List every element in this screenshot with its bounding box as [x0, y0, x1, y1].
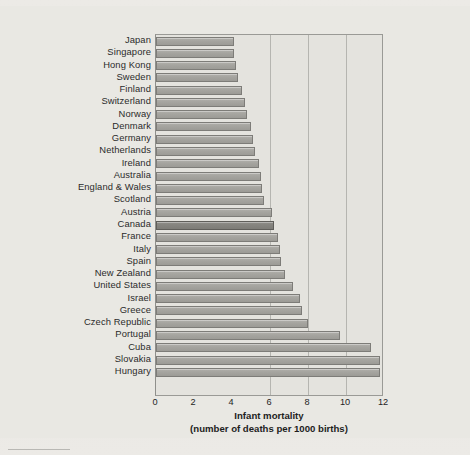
bar-rows: JapanSingaporeHong KongSwedenFinlandSwit…: [156, 35, 382, 395]
x-axis-title: Infant mortality (number of deaths per 1…: [155, 410, 383, 435]
bar-row: Ireland: [156, 158, 382, 170]
category-label-denmark: Denmark: [112, 120, 151, 132]
bar-row: Hong Kong: [156, 60, 382, 72]
bar-norway: [156, 110, 247, 119]
category-label-cuba: Cuba: [128, 341, 151, 353]
category-label-japan: Japan: [125, 34, 151, 46]
category-label-england-wales: England & Wales: [78, 181, 151, 193]
category-label-new-zealand: New Zealand: [95, 267, 151, 279]
bar-row: New Zealand: [156, 268, 382, 280]
category-label-slovakia: Slovakia: [115, 353, 151, 365]
bar-australia: [156, 172, 261, 181]
category-label-united-states: United States: [93, 279, 151, 291]
x-tick-2: 2: [190, 397, 195, 407]
bar-switzerland: [156, 98, 245, 107]
bar-row: Sweden: [156, 72, 382, 84]
category-label-portugal: Portugal: [115, 328, 151, 340]
bar-czech-republic: [156, 319, 308, 328]
bar-row: Israel: [156, 293, 382, 305]
page-background: JapanSingaporeHong KongSwedenFinlandSwit…: [0, 0, 470, 455]
bar-row: Austria: [156, 207, 382, 219]
bar-row: Denmark: [156, 121, 382, 133]
bar-row: Scotland: [156, 194, 382, 206]
x-axis-title-line2: (number of deaths per 1000 births): [155, 423, 383, 436]
bar-row: United States: [156, 280, 382, 292]
x-axis-title-line1: Infant mortality: [155, 410, 383, 423]
bar-row: Finland: [156, 84, 382, 96]
bar-sweden: [156, 73, 238, 82]
bar-new-zealand: [156, 270, 285, 279]
bar-row: Canada: [156, 219, 382, 231]
category-label-scotland: Scotland: [114, 193, 151, 205]
category-label-germany: Germany: [112, 132, 151, 144]
category-label-switzerland: Switzerland: [101, 95, 151, 107]
bar-ireland: [156, 159, 259, 168]
bar-row: Germany: [156, 133, 382, 145]
bar-row: England & Wales: [156, 182, 382, 194]
category-label-hong-kong: Hong Kong: [103, 59, 151, 71]
bar-row: Switzerland: [156, 96, 382, 108]
category-label-greece: Greece: [120, 304, 151, 316]
bar-row: Spain: [156, 256, 382, 268]
category-label-italy: Italy: [133, 243, 151, 255]
bar-cuba: [156, 343, 371, 352]
bar-row: Hungary: [156, 366, 382, 378]
bar-netherlands: [156, 147, 255, 156]
bar-canada: [156, 221, 274, 230]
x-tick-8: 8: [304, 397, 309, 407]
category-label-ireland: Ireland: [122, 157, 151, 169]
x-tick-10: 10: [340, 397, 350, 407]
category-label-singapore: Singapore: [107, 46, 151, 58]
bar-row: Cuba: [156, 342, 382, 354]
bar-row: Portugal: [156, 329, 382, 341]
category-label-czech-republic: Czech Republic: [84, 316, 151, 328]
bar-row: Singapore: [156, 47, 382, 59]
bar-greece: [156, 306, 302, 315]
bar-germany: [156, 135, 253, 144]
figure-panel: JapanSingaporeHong KongSwedenFinlandSwit…: [0, 6, 470, 438]
bar-row: France: [156, 231, 382, 243]
bar-england-wales: [156, 184, 262, 193]
category-label-austria: Austria: [121, 206, 151, 218]
bar-denmark: [156, 122, 251, 131]
bar-scotland: [156, 196, 264, 205]
bar-hungary: [156, 368, 380, 377]
bar-france: [156, 233, 278, 242]
category-label-israel: Israel: [127, 292, 151, 304]
bar-united-states: [156, 282, 293, 291]
x-tick-6: 6: [266, 397, 271, 407]
bar-row: Italy: [156, 244, 382, 256]
category-label-australia: Australia: [114, 169, 151, 181]
bar-row: Australia: [156, 170, 382, 182]
bar-slovakia: [156, 356, 380, 365]
category-label-spain: Spain: [127, 255, 151, 267]
bar-row: Czech Republic: [156, 317, 382, 329]
bar-portugal: [156, 331, 340, 340]
bar-chart-plot-area: JapanSingaporeHong KongSwedenFinlandSwit…: [155, 34, 383, 396]
category-label-norway: Norway: [119, 108, 151, 120]
footer-rule: [8, 449, 70, 450]
bar-hong-kong: [156, 61, 236, 70]
bar-italy: [156, 245, 280, 254]
category-label-sweden: Sweden: [117, 71, 151, 83]
category-label-hungary: Hungary: [115, 365, 151, 377]
bar-japan: [156, 37, 234, 46]
bar-row: Japan: [156, 35, 382, 47]
x-tick-0: 0: [152, 397, 157, 407]
bar-finland: [156, 86, 242, 95]
bar-austria: [156, 208, 272, 217]
bar-row: Greece: [156, 305, 382, 317]
x-tick-4: 4: [228, 397, 233, 407]
category-label-france: France: [121, 230, 151, 242]
bar-row: Norway: [156, 109, 382, 121]
bar-israel: [156, 294, 300, 303]
category-label-finland: Finland: [120, 83, 151, 95]
bar-singapore: [156, 49, 234, 58]
bar-row: Netherlands: [156, 145, 382, 157]
bar-spain: [156, 257, 281, 266]
bar-row: Slovakia: [156, 354, 382, 366]
x-tick-12: 12: [378, 397, 388, 407]
category-label-netherlands: Netherlands: [99, 144, 151, 156]
category-label-canada: Canada: [118, 218, 151, 230]
